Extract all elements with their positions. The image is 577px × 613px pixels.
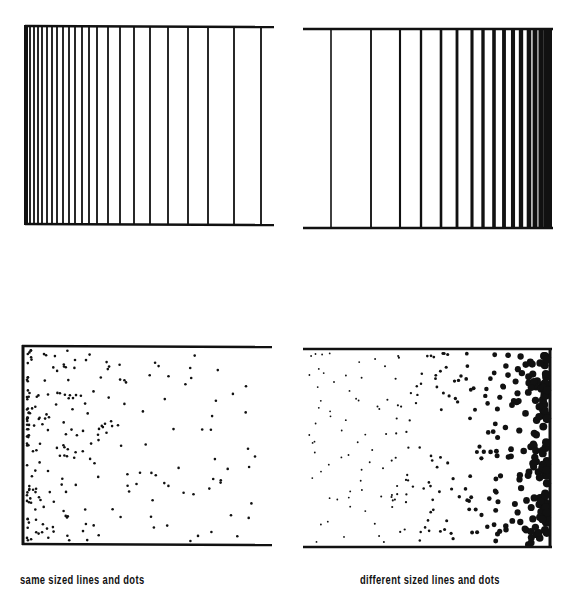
gradient-diagram (0, 0, 577, 613)
dots-different-panel (303, 349, 552, 548)
caption-left: same sized lines and dots (20, 572, 144, 587)
caption-right: different sized lines and dots (360, 572, 500, 587)
dots-same-panel (22, 345, 272, 545)
lines-different-panel (303, 29, 553, 229)
lines-same-panel (24, 25, 274, 225)
